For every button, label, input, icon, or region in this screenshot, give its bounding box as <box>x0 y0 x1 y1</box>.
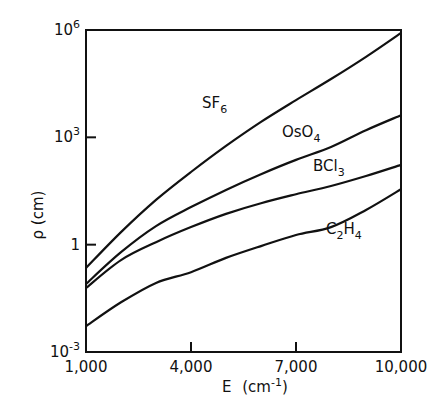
y-tick-label: 1 <box>70 236 80 254</box>
label-c2h4: C2H4 <box>326 220 362 242</box>
curve-c2h4 <box>86 189 401 326</box>
y-axis-ticks: 10-31103106 <box>50 18 96 361</box>
x-tick-label: 4,000 <box>170 358 213 376</box>
x-tick-label: 1,000 <box>65 358 108 376</box>
curve-oso4 <box>86 115 401 284</box>
label-sf6: SF6 <box>202 94 227 116</box>
plot-frame <box>86 30 401 352</box>
chart: 1,0004,0007,00010,000 10-31103106 SF6OsO… <box>0 0 445 411</box>
y-tick-label: 106 <box>54 18 80 39</box>
x-tick-label: 7,000 <box>275 358 318 376</box>
curve-labels: SF6OsO4BCl3C2H4 <box>202 94 362 242</box>
x-axis-title: E (cm-1) <box>222 376 288 396</box>
y-axis-title: ρ (cm) <box>29 191 47 240</box>
label-oso4: OsO4 <box>282 123 320 145</box>
x-tick-label: 10,000 <box>375 358 428 376</box>
x-axis-ticks: 1,0004,0007,00010,000 <box>65 342 428 376</box>
y-tick-label: 103 <box>54 125 80 146</box>
label-bcl3: BCl3 <box>313 157 345 179</box>
data-curves <box>86 33 401 326</box>
